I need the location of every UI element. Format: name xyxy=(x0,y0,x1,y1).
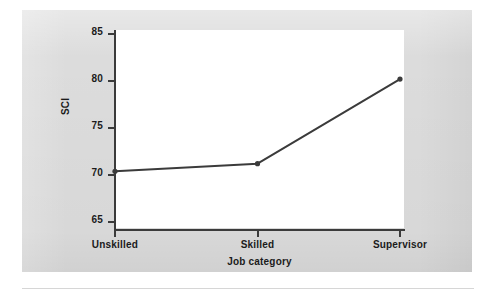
x-tick-skilled: Skilled xyxy=(257,230,259,237)
y-tick-label: 85 xyxy=(91,26,103,37)
y-tick-75: 75 xyxy=(108,127,115,129)
x-tick-unskilled: Unskilled xyxy=(114,230,116,237)
y-axis-title: SCI xyxy=(60,98,71,115)
y-axis-line xyxy=(114,30,116,230)
x-tick-label: Skilled xyxy=(241,239,275,250)
x-tick-supervisor: Supervisor xyxy=(399,230,401,237)
page-divider-rule xyxy=(22,288,474,289)
x-tick-label: Supervisor xyxy=(373,239,427,250)
y-tick-85: 85 xyxy=(108,33,115,35)
y-tick-label: 70 xyxy=(91,167,103,178)
y-tick-label: 80 xyxy=(91,73,103,84)
plot-area xyxy=(115,30,404,228)
y-tick-label: 65 xyxy=(91,214,103,225)
y-tick-70: 70 xyxy=(108,174,115,176)
x-tick-label: Unskilled xyxy=(92,239,138,250)
x-axis-title: Job category xyxy=(115,256,404,267)
y-tick-80: 80 xyxy=(108,80,115,82)
x-axis-line xyxy=(114,229,405,231)
y-tick-65: 65 xyxy=(108,221,115,223)
y-tick-label: 75 xyxy=(91,120,103,131)
figure-root: 6570758085 UnskilledSkilledSupervisor SC… xyxy=(0,0,494,302)
